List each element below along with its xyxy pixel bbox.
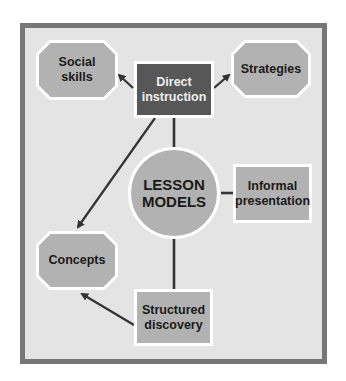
node-label: Socialskills [36, 40, 118, 100]
node-label: Strategies [231, 40, 311, 98]
node-label: Concepts [36, 231, 118, 290]
arrow-to-strategies [214, 75, 229, 88]
label-line: LESSON [143, 176, 205, 193]
label-line: Social [59, 55, 96, 69]
label-line: Informal [248, 179, 297, 193]
node-concepts: Concepts [36, 231, 118, 290]
node-direct-instruction: Directinstruction [134, 61, 214, 118]
label-line: Direct [156, 75, 191, 89]
label-line: instruction [142, 90, 207, 104]
node-structured-discovery: Structureddiscovery [134, 289, 213, 346]
node-lesson-models: LESSONMODELS [128, 147, 220, 239]
node-informal-presentation: Informalpresentation [233, 164, 312, 223]
label-line: skills [61, 70, 92, 84]
label-line: Concepts [49, 253, 106, 268]
label-line: discovery [144, 318, 202, 332]
node-strategies: Strategies [231, 40, 311, 98]
label-line: Structured [142, 303, 205, 317]
arrow-to-social-skills [119, 75, 133, 88]
label-line: MODELS [142, 193, 206, 210]
label-line: Strategies [241, 62, 301, 77]
label-line: presentation [235, 194, 310, 208]
arrow-structured-to-concepts [82, 294, 134, 325]
node-social-skills: Socialskills [36, 40, 118, 100]
